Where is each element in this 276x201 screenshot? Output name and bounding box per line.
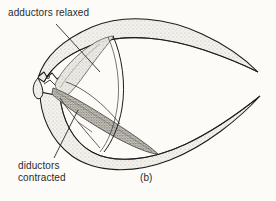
figure-caption: (b) xyxy=(140,172,153,184)
label-diductors-contracted: diductorscontracted xyxy=(18,160,66,183)
label-adductors-relaxed: adductors relaxed xyxy=(8,7,89,19)
label-diductors-line2: contracted xyxy=(18,172,66,183)
figure-panel: adductors relaxed diductorscontracted (b… xyxy=(0,0,276,201)
label-diductors-line1: diductors xyxy=(18,160,59,171)
